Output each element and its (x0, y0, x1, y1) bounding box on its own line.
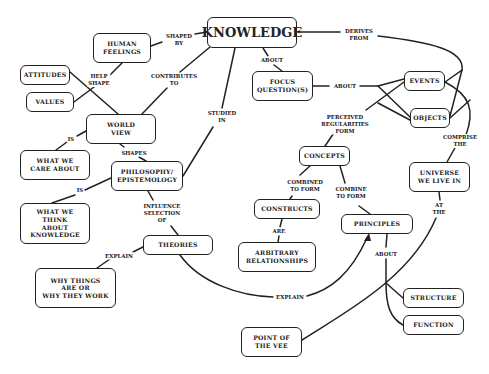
node-human-feelings: HUMAN FEELINGS (93, 33, 151, 63)
link-perceived-regularities-form: PERCEIVED REGULARITIES FORM (320, 114, 369, 135)
node-function: FUNCTION (403, 315, 464, 335)
link-about-knowledge: ABOUT (260, 57, 284, 64)
link-combine-to-form: COMBINE TO FORM (334, 186, 367, 200)
node-values: VALUES (26, 92, 74, 112)
link-is-think: IS (76, 187, 84, 194)
link-shapes: SHAPES (120, 150, 147, 157)
node-attitudes: ATTITUDES (20, 65, 70, 85)
node-what-we-think-about-knowledge: WHAT WE THINK ABOUT KNOWLEDGE (20, 203, 90, 244)
link-explain-principles: EXPLAIN (275, 294, 305, 301)
node-events: EVENTS (404, 71, 445, 91)
concept-map: KNOWLEDGE HUMAN FEELINGS ATTITUDES VALUE… (0, 0, 489, 374)
link-comprise-the: COMPRISE THE (442, 134, 478, 148)
link-contributes-to: CONTRIBUTES TO (150, 73, 198, 87)
link-is-care: IS (67, 136, 75, 143)
link-derives-from: DERIVES FROM (344, 28, 374, 42)
link-at-the: AT THE (431, 202, 446, 216)
link-are: ARE (272, 228, 287, 235)
node-knowledge: KNOWLEDGE (207, 17, 297, 48)
node-objects: OBJECTS (410, 108, 450, 128)
link-influence-selection-of: INFLUENCE SELECTION OF (143, 203, 182, 224)
node-focus-questions: FOCUS QUESTION(S) (252, 71, 313, 101)
link-about-principles: ABOUT (374, 251, 398, 258)
node-theories: THEORIES (143, 235, 213, 255)
link-studied-in: STUDIED IN (207, 110, 238, 124)
node-universe-we-live-in: UNIVERSE WE LIVE IN (409, 162, 470, 192)
node-world-view: WORLD VIEW (86, 114, 156, 144)
node-concepts: CONCEPTS (299, 146, 350, 166)
link-help-shape: HELP SHAPE (87, 73, 110, 87)
link-shaped-by: SHAPED BY (165, 33, 193, 47)
node-point-of-the-vee: POINT OF THE VEE (241, 327, 302, 357)
link-explain-why: EXPLAIN (104, 253, 134, 260)
node-principles: PRINCIPLES (341, 214, 413, 234)
node-structure: STRUCTURE (403, 288, 464, 308)
node-constructs: CONSTRUCTS (254, 199, 320, 219)
link-about-focus: ABOUT (333, 83, 357, 90)
node-what-we-care-about: WHAT WE CARE ABOUT (20, 150, 90, 180)
link-combined-to-form: COMBINED TO FORM (286, 179, 324, 193)
node-why-things-are: WHY THINGS ARE OR WHY THEY WORK (35, 268, 116, 308)
node-arbitrary-relationships: ARBITRARY RELATIONSHIPS (238, 242, 316, 272)
node-philosophy-epistemology: PHILOSOPHY/ EPISTEMOLOGY (111, 161, 183, 191)
